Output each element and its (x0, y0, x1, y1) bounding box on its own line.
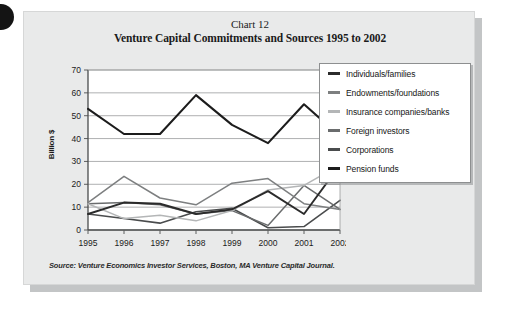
y-tick-label: 30 (72, 156, 82, 166)
legend-item-label: Pension funds (346, 164, 399, 174)
legend-item: Insurance companies/banks (320, 102, 470, 121)
chart-title-block: Chart 12 Venture Capital Commitments and… (24, 18, 476, 45)
chart-figure: Chart 12 Venture Capital Commitments and… (23, 11, 475, 285)
legend-line-swatch-icon (328, 167, 340, 170)
legend-item-label: Insurance companies/banks (346, 107, 449, 117)
y-tick-label: 20 (72, 179, 82, 189)
legend-item-label: Endowments/foundations (346, 88, 439, 98)
x-tick-label: 1995 (79, 238, 98, 248)
y-tick-label: 50 (72, 111, 82, 121)
page-corner-dot (0, 4, 14, 30)
legend-item: Individuals/families (320, 64, 470, 83)
legend-item: Corporations (320, 140, 470, 159)
legend-item-label: Corporations (346, 145, 393, 155)
y-tick-label: 10 (72, 202, 82, 212)
legend-item: Pension funds (320, 159, 470, 178)
legend-line-swatch-icon (328, 129, 340, 132)
chart-legend: Individuals/familiesEndowments/foundatio… (319, 63, 471, 183)
legend-line-swatch-icon (328, 110, 340, 113)
plot-background (88, 70, 340, 230)
legend-item: Foreign investors (320, 121, 470, 140)
x-tick-label: 2001 (295, 238, 314, 248)
x-tick-label: 1999 (223, 238, 242, 248)
legend-line-swatch-icon (328, 72, 340, 75)
x-tick-label: 1997 (151, 238, 170, 248)
legend-item-label: Individuals/families (346, 69, 415, 79)
page-title: Venture Capital Commitments and Sources … (24, 31, 476, 45)
x-tick-label: 1998 (187, 238, 206, 248)
y-tick-label: 0 (76, 225, 81, 235)
legend-item-label: Foreign investors (346, 126, 410, 136)
chart-number: Chart 12 (24, 18, 476, 31)
y-tick-label: 40 (72, 134, 82, 144)
y-tick-label: 70 (72, 65, 82, 75)
legend-line-swatch-icon (328, 91, 340, 94)
source-note: Source: Venture Economics Investor Servi… (49, 261, 335, 270)
y-tick-label: 60 (72, 88, 82, 98)
x-tick-label: 1996 (115, 238, 134, 248)
x-tick-label: 2002 (331, 238, 346, 248)
line-chart-svg: 0102030405060701995199619971998199920002… (58, 60, 346, 260)
x-tick-label: 2000 (259, 238, 278, 248)
legend-item: Endowments/foundations (320, 83, 470, 102)
legend-line-swatch-icon (328, 148, 340, 151)
plot-area: 0102030405060701995199619971998199920002… (58, 60, 346, 260)
y-axis-title: Billion $ (47, 115, 56, 175)
screenshot-root: Chart 12 Venture Capital Commitments and… (0, 0, 506, 311)
